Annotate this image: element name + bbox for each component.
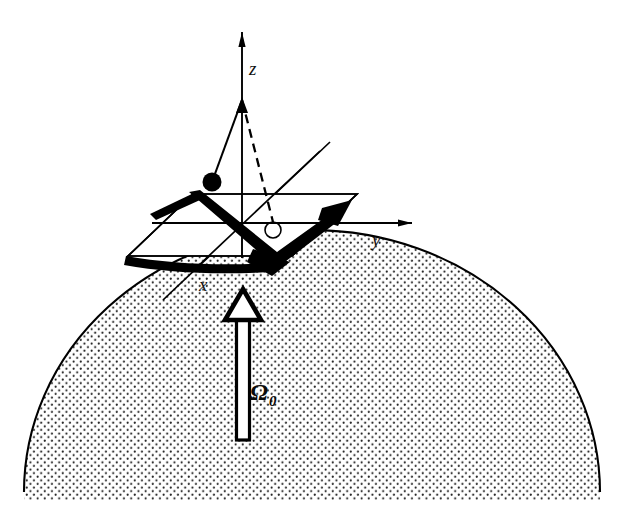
y-axis-arrowhead (398, 220, 412, 227)
z-axis-arrowhead (238, 32, 245, 47)
y-axis-label: y (370, 229, 381, 250)
omega-subscript: 0 (269, 393, 277, 409)
pendulum-bob (203, 173, 222, 192)
foucault-pendulum-diagram: Ω0 (0, 0, 620, 515)
figure-root: Ω0 (0, 0, 620, 515)
z-axis-label: z (248, 58, 257, 79)
pendulum-pivot (236, 97, 248, 113)
omega-symbol: Ω (250, 379, 268, 405)
x-axis-label: x (198, 274, 208, 295)
